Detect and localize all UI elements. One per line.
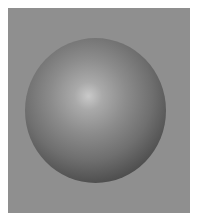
image-frame: [0, 0, 197, 218]
shaded-sphere: [25, 38, 166, 183]
